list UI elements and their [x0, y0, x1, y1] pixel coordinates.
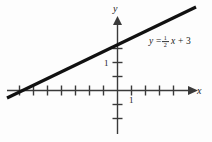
equation-fraction-numerator: 1 — [164, 34, 167, 41]
y-axis-arrowhead — [113, 16, 122, 25]
equation-plus: + — [178, 36, 183, 46]
x-axis-label: x — [196, 85, 202, 96]
equation-constant: 3 — [186, 36, 191, 46]
coordinate-plane-svg: x y 1 1 y = 1 2 x + 3 — [0, 0, 212, 142]
plot-line-series-1 — [7, 7, 196, 98]
equation-annotation: y = 1 2 x + 3 — [148, 34, 191, 48]
equation-variable: x — [170, 36, 176, 46]
y-axis-label: y — [112, 3, 118, 14]
equation-equals: = — [156, 36, 161, 46]
equation-fraction-denominator: 2 — [164, 41, 167, 48]
y-tick-label-1: 1 — [104, 58, 109, 68]
x-tick-label-1: 1 — [129, 95, 134, 105]
graph-figure: x y 1 1 y = 1 2 x + 3 — [0, 0, 212, 142]
equation-lhs: y — [148, 36, 154, 46]
